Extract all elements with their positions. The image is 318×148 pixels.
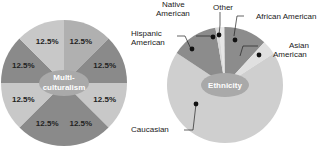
multiculturalism-center-label-2: culturalism	[43, 83, 86, 92]
dot-caucasian	[194, 102, 199, 107]
label-native-american-2: American	[156, 9, 190, 18]
dot-native-american	[211, 35, 216, 40]
label-hispanic-american-1: Hispanic	[131, 29, 162, 38]
label-asian-american-2: American	[273, 50, 307, 59]
dot-african-american	[233, 38, 238, 43]
dot-asian-american	[257, 53, 262, 58]
dot-other	[217, 33, 222, 38]
dot-hispanic-american	[190, 47, 195, 52]
multiculturalism-slice-label: 12.5%	[69, 37, 92, 46]
label-caucasian: Caucasian	[131, 125, 169, 134]
label-african-american: African American	[256, 12, 316, 21]
multiculturalism-slice-label: 12.5%	[36, 119, 59, 128]
label-native-american-1: Native	[162, 0, 185, 9]
label-hispanic-american-2: American	[131, 38, 165, 47]
multiculturalism-slice-label: 12.5%	[36, 37, 59, 46]
multiculturalism-slice-label: 12.5%	[12, 95, 35, 104]
multiculturalism-slice-label: 12.5%	[93, 95, 116, 104]
label-other: Other	[213, 3, 233, 12]
chart-canvas: 12.5%12.5%12.5%12.5%12.5%12.5%12.5%12.5%…	[0, 0, 318, 148]
ethnicity-center-label: Ethnicity	[208, 81, 242, 90]
multiculturalism-slice-label: 12.5%	[69, 119, 92, 128]
multiculturalism-slice-label: 12.5%	[12, 61, 35, 70]
multiculturalism-slice-label: 12.5%	[93, 61, 116, 70]
multiculturalism-center-label-1: Multi-	[53, 73, 75, 82]
label-asian-american-1: Asian	[289, 41, 309, 50]
